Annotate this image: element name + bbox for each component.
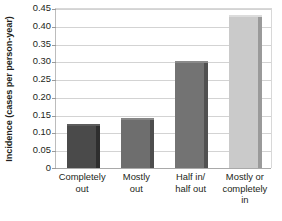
y-axis-tick-label: 0.35 (33, 39, 51, 48)
x-axis-tick-label-line: completely in (218, 183, 272, 206)
x-axis-tick-label: Half in/half out (164, 171, 218, 194)
x-axis-tick-label-line: half out (164, 183, 218, 195)
x-axis-tick-label-line: Completely (55, 171, 109, 183)
x-axis-tick-label: Mostlyout (109, 171, 163, 194)
y-axis-title-text: Incidence (cases per person-year) (4, 16, 14, 161)
y-axis-tick-mark (52, 168, 56, 169)
gridline (56, 168, 271, 169)
y-axis-tick-label: 0.15 (33, 110, 51, 119)
y-axis-tick-label: 0.45 (33, 3, 51, 12)
bar[interactable] (67, 124, 100, 168)
y-axis-tick-label: 0.05 (33, 146, 51, 155)
plot-area (55, 8, 272, 168)
y-axis-tick-label: 0 (46, 163, 51, 172)
x-axis-tick-label-line: Mostly or (218, 171, 272, 183)
y-axis-tick-label: 0.10 (33, 128, 51, 137)
bar-side-face (96, 126, 100, 168)
bars-layer (56, 9, 271, 168)
bar-group (229, 9, 262, 168)
y-axis-tick-label: 0.40 (33, 21, 51, 30)
bar-side-face (204, 63, 208, 168)
bar-side-face (258, 17, 262, 168)
bar-group (175, 9, 208, 168)
y-axis-tick-label: 0.20 (33, 92, 51, 101)
bar-body (67, 124, 96, 168)
bar-group (67, 9, 100, 168)
y-axis-tick-label: 0.30 (33, 57, 51, 66)
bar-top-face (67, 124, 100, 126)
bar-chart-figure: Incidence (cases per person-year) 00.050… (0, 0, 282, 221)
bar-side-face (150, 120, 154, 168)
y-axis-tick-labels: 00.050.100.150.200.250.300.350.400.45 (18, 8, 54, 168)
bar-body (229, 15, 258, 168)
x-axis-tick-label-line: Mostly (109, 171, 163, 183)
bottom-cut-text (55, 212, 272, 221)
bar-top-face (121, 118, 154, 120)
bar-group (121, 9, 154, 168)
bar-body (121, 118, 150, 168)
bar-top-face (229, 15, 262, 17)
y-axis-title: Incidence (cases per person-year) (0, 0, 18, 178)
x-axis-tick-labels: CompletelyoutMostlyoutHalf in/half outMo… (55, 171, 272, 211)
x-axis-tick-label-line: out (109, 183, 163, 195)
bar-body (175, 61, 204, 168)
x-axis-tick-label: Mostly orcompletely in (218, 171, 272, 206)
x-axis-tick-label: Completelyout (55, 171, 109, 194)
x-axis-tick-label-line: Half in/ (164, 171, 218, 183)
x-axis-tick-label-line: out (55, 183, 109, 195)
bar[interactable] (229, 15, 262, 168)
y-axis-tick-label: 0.25 (33, 74, 51, 83)
bar[interactable] (121, 118, 154, 168)
bar[interactable] (175, 61, 208, 168)
bar-top-face (175, 61, 208, 63)
